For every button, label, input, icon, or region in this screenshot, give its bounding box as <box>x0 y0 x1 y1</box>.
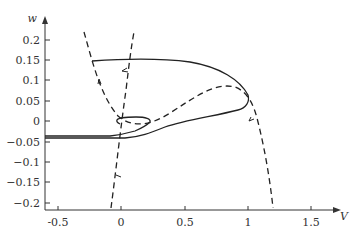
y-tick-label: 0 <box>33 115 40 128</box>
x-axis-label: V <box>340 210 349 223</box>
y-tick-label: −0.15 <box>6 176 40 189</box>
direction-arrows <box>98 68 254 177</box>
y-axis-arrow-icon <box>42 16 48 24</box>
x-tick-label: 1 <box>245 216 252 229</box>
chart-canvas: V w -0.5 0 0.5 1 1.5 0.2 0.15 <box>0 0 354 239</box>
x-ticks: -0.5 0 0.5 1 1.5 <box>47 206 319 229</box>
arrow-down-icon <box>249 117 254 121</box>
inner-loop-trajectory <box>45 117 150 136</box>
y-tick-label: 0.15 <box>16 54 41 67</box>
x-tick-label: 0 <box>118 216 125 229</box>
y-tick-label: −0.1 <box>13 156 40 169</box>
y-tick-label: 0.05 <box>16 95 41 108</box>
y-tick-label: 0.2 <box>23 34 41 47</box>
y-ticks: 0.2 0.15 0.1 0.05 0 −0.05 −0.1 −0.15 −0.… <box>6 34 50 210</box>
arrow-right-icon <box>116 175 121 177</box>
arrow-left-icon <box>122 68 128 72</box>
v-nullcline-curve <box>84 32 273 208</box>
y-tick-label: −0.05 <box>6 136 40 149</box>
w-nullcline-curve <box>111 32 134 208</box>
x-tick-label: -0.5 <box>47 216 68 229</box>
x-tick-label: 0.5 <box>176 216 194 229</box>
x-tick-label: 1.5 <box>302 216 320 229</box>
y-tick-label: −0.2 <box>13 197 40 210</box>
limit-cycle-trajectory <box>45 59 249 138</box>
y-axis-label: w <box>28 12 38 25</box>
phase-plane-chart: V w -0.5 0 0.5 1 1.5 0.2 0.15 <box>0 0 354 239</box>
y-tick-label: 0.1 <box>23 74 41 87</box>
